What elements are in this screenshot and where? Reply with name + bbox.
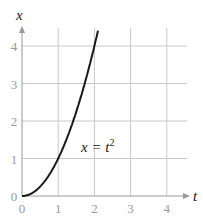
y-tick-label: 1: [11, 152, 18, 167]
y-tick-label: 4: [11, 39, 18, 54]
curve-label: x = t2: [80, 137, 114, 155]
grid: [22, 28, 187, 196]
x-tick-label: 2: [91, 201, 98, 216]
y-tick-label: 3: [11, 77, 18, 92]
y-tick-label: 2: [11, 114, 18, 129]
x-axis-arrow-icon: [183, 193, 190, 199]
axes: [19, 26, 190, 199]
y-axis-arrow-icon: [19, 26, 25, 33]
curve-x-equals-t-squared: [22, 31, 98, 196]
chart: 0123401234 t x x = t2: [0, 0, 203, 220]
tick-labels: 0123401234: [11, 39, 171, 216]
x-tick-label: 3: [127, 201, 134, 216]
x-tick-label: 1: [55, 201, 62, 216]
y-axis-label: x: [15, 7, 23, 23]
x-tick-label: 0: [19, 201, 26, 216]
x-tick-label: 4: [164, 201, 171, 216]
y-tick-label: 0: [11, 189, 18, 204]
x-axis-label: t: [193, 188, 198, 204]
